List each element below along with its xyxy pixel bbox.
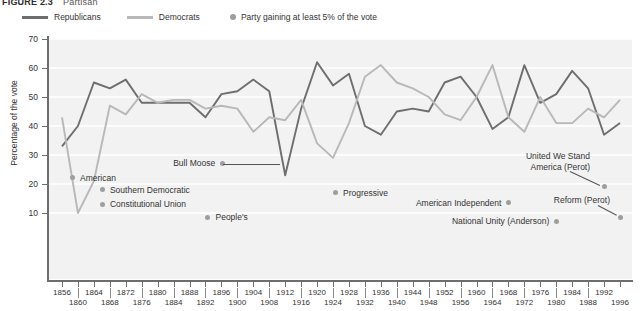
x-axis-tick-mark bbox=[524, 282, 525, 287]
annotation-label: Southern Democratic bbox=[110, 185, 190, 195]
x-axis-tick-label: 1952 bbox=[436, 288, 454, 297]
figure-caption: Partisan bbox=[63, 0, 98, 7]
y-axis-tick-label: 10 bbox=[12, 208, 38, 218]
x-axis-tick-mark bbox=[445, 282, 446, 287]
x-axis-tick-mark bbox=[492, 282, 493, 287]
x-axis-tick-mark bbox=[429, 282, 430, 287]
x-axis-tick-label: 1892 bbox=[197, 298, 215, 307]
annotation-label: National Unity (Anderson) bbox=[452, 216, 549, 226]
x-axis-label-separator bbox=[588, 288, 589, 298]
x-axis-label-separator bbox=[142, 288, 143, 298]
annotation-national-unity-anderson: National Unity (Anderson) bbox=[452, 216, 559, 227]
annotation-label: People's bbox=[215, 212, 247, 222]
x-axis-tick-label: 1928 bbox=[340, 288, 358, 297]
x-axis-tick-label: 1884 bbox=[165, 298, 183, 307]
x-axis-tick-mark bbox=[62, 282, 63, 287]
x-axis-tick-mark bbox=[508, 282, 509, 287]
x-axis-tick-label: 1936 bbox=[372, 288, 390, 297]
x-axis-label-separator bbox=[269, 288, 270, 298]
annotation-label-reform: Reform (Perot) bbox=[554, 195, 610, 206]
legend-label-republicans: Republicans bbox=[54, 12, 101, 22]
x-axis-label-separator bbox=[365, 288, 366, 298]
x-axis-tick-mark bbox=[588, 282, 589, 287]
x-axis-tick-mark bbox=[142, 282, 143, 287]
x-axis-tick-mark bbox=[269, 282, 270, 287]
y-axis-tick-label: 50 bbox=[12, 92, 38, 102]
y-axis-tick-mark bbox=[42, 126, 47, 127]
x-axis-label-separator bbox=[301, 288, 302, 298]
y-axis-tick-mark bbox=[42, 184, 47, 185]
x-axis-tick-label: 1964 bbox=[484, 298, 502, 307]
annotation-dot bbox=[333, 190, 338, 195]
x-axis-tick-mark bbox=[572, 282, 573, 287]
y-axis-tick-label: 20 bbox=[12, 179, 38, 189]
annotation-dot bbox=[100, 187, 105, 192]
x-axis-tick-mark bbox=[285, 282, 286, 287]
legend-swatch-democrats bbox=[127, 16, 153, 19]
x-axis-tick-label: 1860 bbox=[69, 298, 87, 307]
x-axis-tick-label: 1948 bbox=[420, 298, 438, 307]
x-axis-tick-mark bbox=[413, 282, 414, 287]
x-axis-tick-mark bbox=[620, 282, 621, 287]
x-axis-tick-label: 1996 bbox=[611, 298, 629, 307]
x-axis-tick-mark bbox=[301, 282, 302, 287]
legend-label-democrats: Democrats bbox=[159, 12, 200, 22]
y-axis-tick-label: 60 bbox=[12, 63, 38, 73]
x-axis-tick-label: 1908 bbox=[260, 298, 278, 307]
x-axis-tick-mark bbox=[158, 282, 159, 287]
x-axis-tick-label: 1972 bbox=[515, 298, 533, 307]
annotation-label: Constitutional Union bbox=[110, 199, 186, 209]
x-axis-tick-label: 1904 bbox=[244, 288, 262, 297]
x-axis-tick-label: 1896 bbox=[213, 288, 231, 297]
legend-item-democrats: Democrats bbox=[127, 12, 200, 22]
x-axis-label-separator bbox=[333, 288, 334, 298]
annotation-american-independent: American Independent bbox=[416, 197, 512, 208]
x-axis-tick-label: 1900 bbox=[228, 298, 246, 307]
annotation-dot bbox=[205, 215, 210, 220]
annotation-dot bbox=[554, 219, 559, 224]
y-axis-tick-label: 30 bbox=[12, 150, 38, 160]
annotation-label-united-we-stand: United We StandAmerica (Perot) bbox=[526, 151, 590, 173]
x-axis-label-separator bbox=[397, 288, 398, 298]
annotation-american: American bbox=[70, 172, 116, 183]
x-axis-tick-mark bbox=[78, 282, 79, 287]
x-axis-label-separator bbox=[492, 288, 493, 298]
annotation-label: American bbox=[80, 173, 116, 183]
x-axis-tick-label: 1960 bbox=[468, 288, 486, 297]
figure-number: FIGURE 2.3 bbox=[2, 0, 53, 7]
y-axis-tick-mark bbox=[42, 213, 47, 214]
x-axis-tick-mark bbox=[126, 282, 127, 287]
annotation-constitutional-union: Constitutional Union bbox=[100, 198, 186, 209]
x-axis-tick-label: 1912 bbox=[276, 288, 294, 297]
x-axis-tick-label: 1992 bbox=[595, 288, 613, 297]
x-axis-tick-mark bbox=[604, 282, 605, 287]
x-axis-tick-label: 1988 bbox=[579, 298, 597, 307]
x-axis-label-separator bbox=[429, 288, 430, 298]
x-axis-tick-label: 1920 bbox=[308, 288, 326, 297]
x-axis-tick-mark bbox=[221, 282, 222, 287]
x-axis-tick-mark bbox=[94, 282, 95, 287]
y-axis-tick-label: 40 bbox=[12, 121, 38, 131]
annotation-dot bbox=[70, 175, 75, 180]
y-axis-tick-label: 70 bbox=[12, 34, 38, 44]
x-axis-tick-mark bbox=[110, 282, 111, 287]
x-axis-tick-label: 1888 bbox=[181, 288, 199, 297]
annotation-dot bbox=[618, 215, 623, 220]
annotation-progressive: Progressive bbox=[333, 187, 388, 198]
x-axis-tick-label: 1924 bbox=[324, 298, 342, 307]
y-axis-tick-mark bbox=[42, 68, 47, 69]
annotation-label: American Independent bbox=[416, 198, 502, 208]
annotation-bull-moose: Bull Moose bbox=[173, 158, 225, 169]
x-axis-tick-label: 1984 bbox=[563, 288, 581, 297]
x-axis-tick-mark bbox=[540, 282, 541, 287]
x-axis-tick-mark bbox=[174, 282, 175, 287]
x-axis-tick-mark bbox=[349, 282, 350, 287]
x-axis-tick-mark bbox=[397, 282, 398, 287]
legend-label-third-party: Party gaining at least 5% of the vote bbox=[241, 12, 377, 22]
x-axis-tick-mark bbox=[317, 282, 318, 287]
x-axis-label-separator bbox=[237, 288, 238, 298]
x-axis-label-separator bbox=[556, 288, 557, 298]
annotation-dot bbox=[100, 202, 105, 207]
x-axis-label-separator bbox=[174, 288, 175, 298]
annotation-leader-line bbox=[223, 164, 280, 165]
